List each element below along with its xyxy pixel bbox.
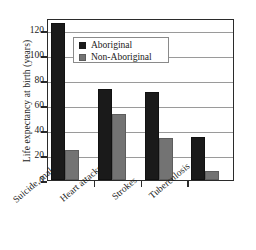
bar-chart: Life expectancy at birth (years) 0204060…	[0, 0, 256, 250]
bar	[145, 92, 159, 180]
legend-label-non-aboriginal: Non-Aboriginal	[91, 53, 152, 63]
bar	[205, 171, 219, 180]
y-tick-label: 80	[14, 76, 44, 86]
y-tick-label: 120	[14, 26, 44, 36]
x-tick-mark	[141, 181, 143, 187]
y-tick-label: 20	[14, 151, 44, 161]
x-tick-mark	[94, 181, 96, 187]
bar	[191, 137, 205, 180]
legend-swatch-aboriginal	[79, 42, 86, 49]
bar	[112, 114, 126, 180]
legend-swatch-non-aboriginal	[79, 54, 86, 61]
legend-item-aboriginal: Aboriginal	[79, 40, 168, 51]
legend-label-aboriginal: Aboriginal	[91, 41, 132, 51]
x-tick-mark	[187, 181, 189, 187]
gridline	[48, 82, 233, 83]
bar	[65, 150, 79, 180]
gridline	[48, 32, 233, 33]
chart-legend: Aboriginal Non-Aboriginal	[73, 37, 169, 63]
y-tick-label: 40	[14, 126, 44, 136]
gridline	[48, 107, 233, 108]
legend-item-non-aboriginal: Non-Aboriginal	[79, 52, 168, 63]
bar	[51, 23, 65, 180]
y-tick-label: 60	[14, 101, 44, 111]
gridline	[48, 132, 233, 133]
y-tick-label: 100	[14, 51, 44, 61]
